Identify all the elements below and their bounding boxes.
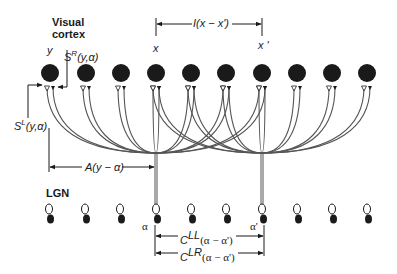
lgn-cell-right-eye [224, 215, 231, 224]
axon-branch [259, 87, 262, 153]
lgn-cells [46, 204, 373, 224]
axon-branch [47, 87, 156, 153]
axon-branch [262, 87, 370, 153]
s-left-pointer [28, 85, 42, 118]
synapse-left-eye [45, 86, 50, 91]
synapse-right-eye [263, 86, 267, 90]
synapse-right-eye [227, 86, 231, 90]
cortical-neurons [41, 64, 376, 82]
axon-branch [262, 87, 364, 153]
axon-branch [124, 87, 156, 153]
c-ll-label: CLL(α − α') [180, 230, 233, 247]
ocular-dominance-diagram: Visual cortex y x x ' I(x − x') SR(y,α) … [0, 0, 397, 274]
synapse-right-eye [122, 86, 126, 90]
x-prime-label: x ' [258, 40, 269, 51]
lgn-cell-left-eye [294, 204, 301, 214]
c-lr-sup: LR [188, 246, 202, 258]
lgn-cell-right-eye [295, 215, 302, 224]
cortical-neuron [288, 64, 306, 82]
synapse-left-eye [116, 86, 121, 91]
axon-branch [156, 87, 159, 153]
lgn-cell-left-eye [188, 204, 195, 214]
lgn-cell-left-eye [46, 204, 53, 214]
cortical-neuron [358, 64, 376, 82]
cortical-neuron [323, 64, 341, 82]
cortical-neuron [147, 64, 165, 82]
lgn-label: LGN [46, 188, 69, 199]
synapse-left-eye [292, 86, 297, 91]
axon-branch [156, 87, 259, 153]
lgn-cell-right-eye [83, 215, 90, 224]
synapse-left-eye [151, 86, 156, 91]
cortical-neuron [77, 64, 95, 82]
lgn-cell-right-eye [189, 215, 196, 224]
axon-branch [156, 87, 223, 153]
interaction-text: I(x − x') [193, 17, 229, 29]
cortical-neuron [182, 64, 200, 82]
lgn-cell-left-eye [329, 204, 336, 214]
lgn-cell-left-eye [223, 204, 230, 214]
lgn-cell-right-eye [365, 215, 372, 224]
synapse-left-eye [81, 86, 86, 91]
axon-branch [262, 87, 265, 153]
synapse-left-eye [221, 86, 226, 91]
lgn-cell-left-eye [364, 204, 371, 214]
cortical-neuron [253, 64, 271, 82]
axon-branch [262, 87, 294, 153]
s-right-args: (y,α) [77, 51, 98, 63]
lgn-cell-right-eye [260, 215, 267, 224]
c-ll-base: C [180, 234, 188, 246]
x-label: x [153, 43, 159, 54]
c-lr-args: (α − α') [202, 251, 235, 263]
c-lr-base: C [180, 251, 188, 263]
synapse-right-eye [333, 86, 337, 90]
s-left-args: (y,α) [26, 120, 47, 132]
axon-branch [156, 87, 188, 153]
synapse-right-eye [192, 86, 196, 90]
synapse-left-eye [327, 86, 332, 91]
cortical-neuron [41, 64, 59, 82]
visual-cortex-label-line2: cortex [52, 29, 85, 40]
alpha-prime-label: α' [250, 221, 258, 232]
lgn-cell-left-eye [117, 204, 124, 214]
axon-branch [53, 87, 156, 153]
lgn-cell-left-eye [82, 204, 89, 214]
synapse-right-eye [51, 86, 55, 90]
visual-cortex-label-line1: Visual [52, 17, 84, 28]
synapse-right-eye [87, 86, 91, 90]
axon-branch [156, 87, 265, 153]
s-left-label: SL(y,α) [14, 119, 47, 132]
synapse-left-eye [186, 86, 191, 91]
s-right-label: SR(y,α) [64, 50, 98, 63]
synapse-right-eye [298, 86, 302, 90]
interaction-label: I(x − x') [193, 18, 229, 29]
thalamocortical-axons [45, 86, 373, 205]
lgn-cell-right-eye [118, 215, 125, 224]
lgn-cell-right-eye [154, 215, 161, 224]
axon-branch [262, 87, 329, 153]
synapse-right-eye [157, 86, 161, 90]
arbor-label: A(y − α) [85, 162, 124, 173]
lgn-cell-left-eye [153, 204, 160, 214]
axon-branch [159, 87, 262, 153]
c-lr-label: CLR(α − α') [180, 247, 235, 264]
c-ll-args: (α − α') [200, 234, 233, 246]
axon-branch [89, 87, 156, 153]
cortical-neuron [112, 64, 130, 82]
c-ll-sup: LL [188, 229, 200, 241]
lgn-cell-right-eye [330, 215, 337, 224]
axon-branch [229, 87, 262, 153]
lgn-cell-left-eye [259, 204, 266, 214]
alpha-label: α [142, 221, 148, 232]
y-label: y [47, 45, 53, 56]
cortical-neuron [217, 64, 235, 82]
synapse-right-eye [368, 86, 372, 90]
synapse-left-eye [257, 86, 262, 91]
synapse-left-eye [362, 86, 367, 91]
axon-branch [153, 87, 262, 153]
lgn-cell-right-eye [47, 215, 54, 224]
